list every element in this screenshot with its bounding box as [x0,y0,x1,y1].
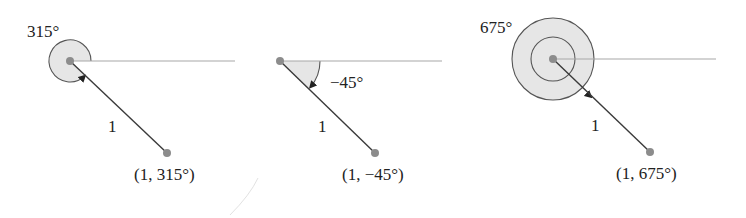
point-label: (1, 315°) [134,165,195,184]
terminal-point [371,149,379,157]
terminal-ray [70,61,167,153]
panel-neg45: −45° 1 (1, −45°) [276,57,442,184]
angle-label: 675° [480,18,512,37]
angle-label: −45° [330,73,363,92]
outer-arc [586,42,668,124]
origin-point [549,55,557,63]
arrow-head-675 [581,88,591,97]
radius-label: 1 [318,117,327,136]
panel-315: 315° 1 (1, 315°) [27,22,235,184]
radius-label: 1 [108,117,117,136]
polar-angle-diagram: 315° 1 (1, 315°) −45° 1 (1, −45°) 675° 1… [0,0,746,218]
faint-curve [230,178,258,215]
point-label: (1, −45°) [342,165,404,184]
angle-sector-neg45 [280,61,320,89]
terminal-point [163,149,171,157]
origin-point [276,57,284,65]
terminal-point [646,148,654,156]
angle-label: 315° [27,22,59,41]
radius-label: 1 [591,116,600,135]
point-label: (1, 675°) [616,164,677,183]
origin-point [66,57,74,65]
terminal-ray [553,59,650,152]
panel-675: 675° 1 (1, 675°) [480,18,716,183]
